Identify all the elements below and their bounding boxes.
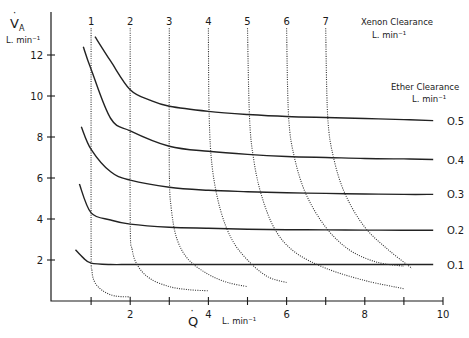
y-tick-label: 12 [30, 50, 43, 61]
xenon-curve-7 [326, 28, 412, 268]
y-tick-label: 4 [37, 214, 43, 225]
xenon-label-1: 1 [88, 16, 94, 27]
xenon-label-2: 2 [127, 16, 133, 27]
xenon-legend-title: Xenon Clearance [361, 17, 433, 27]
y-tick-label: 6 [37, 173, 43, 184]
y-tick-label: 2 [37, 255, 43, 266]
x-axis-label: Q · L. min⁻¹ [188, 305, 256, 329]
xenon-label-5: 5 [244, 16, 250, 27]
axes: 24681012 246810 [30, 12, 449, 320]
y-axis-subscript: A [19, 24, 25, 33]
x-tick-label: 6 [283, 309, 289, 320]
xenon-label-6: 6 [283, 16, 289, 27]
x-tick-label: 8 [362, 309, 368, 320]
xenon-curve-1 [91, 28, 130, 297]
ether-curve-0-4 [83, 47, 433, 160]
series-group [76, 28, 434, 297]
y-axis-dot: · [13, 7, 16, 18]
y-tick-label: 10 [30, 91, 43, 102]
xenon-legend-units: L. min⁻¹ [372, 30, 406, 40]
xenon-label-7: 7 [323, 16, 329, 27]
ether-legend-title: Ether Clearance [391, 82, 459, 92]
y-axis-symbol: V [10, 16, 19, 31]
y-tick-label: 8 [37, 132, 43, 143]
x-axis-dot: · [191, 305, 194, 316]
ether-label-0-4: O.4 [447, 155, 464, 166]
xenon-label-4: 4 [205, 16, 211, 27]
ether-curve-0-5 [95, 37, 433, 121]
x-axis-units: L. min⁻¹ [222, 316, 256, 326]
x-tick-label: 2 [127, 309, 133, 320]
xenon-label-3: 3 [166, 16, 172, 27]
ether-curve-0-1 [76, 250, 434, 265]
axis-lines [51, 12, 443, 301]
ether-label-0-3: O.3 [447, 189, 464, 200]
ether-legend-units: L. min⁻¹ [412, 94, 446, 104]
ether-curve-0-2 [79, 184, 433, 230]
ether-label-0-2: O.2 [447, 225, 464, 236]
legend: Xenon Clearance L. min⁻¹ Ether Clearance… [361, 17, 459, 104]
chart: 24681012 246810 V · A L. min⁻¹ Q · L. mi… [0, 0, 469, 338]
y-axis-units: L. min⁻¹ [6, 35, 40, 45]
ether-label-0-5: O.5 [447, 116, 464, 127]
x-tick-label: 4 [205, 309, 211, 320]
x-tick-label: 10 [437, 309, 450, 320]
y-axis-label: V · A L. min⁻¹ [6, 7, 40, 45]
series-labels: O.5O.4O.3O.2O.11234567 [88, 16, 464, 271]
ether-label-0-1: O.1 [447, 260, 464, 271]
x-axis-symbol: Q [188, 314, 198, 329]
ether-curve-0-3 [81, 127, 433, 195]
xenon-curve-3 [169, 28, 247, 286]
